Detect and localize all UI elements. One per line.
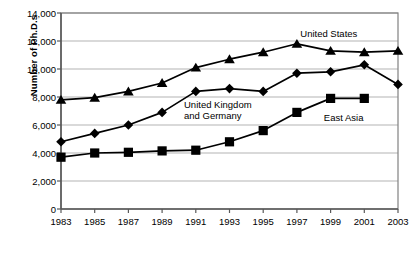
data-point-square: [158, 146, 167, 155]
x-tick-label: 1985: [84, 216, 105, 227]
x-tick-label: 1991: [185, 216, 206, 227]
x-tick-label: 1987: [118, 216, 139, 227]
series-annotation-united-kingdom-and-germany: United Kingdom and Germany: [184, 99, 252, 121]
x-tick-label: 1999: [320, 216, 341, 227]
x-tick-label: 2003: [387, 216, 408, 227]
x-tick-label: 1989: [152, 216, 173, 227]
x-tick-label: 1983: [50, 216, 71, 227]
data-point-square: [259, 126, 268, 135]
series-annotation-east-asia: East Asia: [324, 112, 364, 123]
data-point-square: [360, 94, 369, 103]
x-tick-label: 1997: [286, 216, 307, 227]
x-tick-label: 1995: [253, 216, 274, 227]
x-tick-label: 2001: [354, 216, 375, 227]
series-annotation-united-states: United States: [300, 28, 357, 39]
data-point-square: [292, 108, 301, 117]
data-point-square: [124, 148, 133, 157]
data-point-square: [225, 137, 234, 146]
data-point-square: [326, 94, 335, 103]
x-tick-label: 1993: [219, 216, 240, 227]
phd-line-chart: Number of Ph.D.s 02,0004,0006,0008,00010…: [0, 0, 417, 260]
data-point-square: [191, 146, 200, 155]
data-point-square: [56, 153, 65, 162]
data-point-square: [90, 148, 99, 157]
